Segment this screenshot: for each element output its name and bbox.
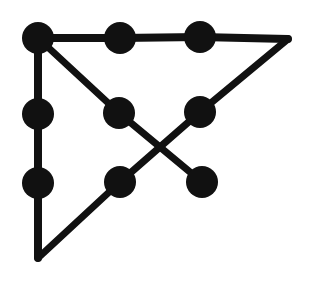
node-center-bottom bbox=[104, 166, 136, 198]
node-top-middle bbox=[104, 22, 136, 54]
figure-root bbox=[0, 0, 309, 284]
node-center-right bbox=[184, 96, 216, 128]
node-right-bottom bbox=[186, 166, 218, 198]
node-left-lower bbox=[22, 167, 54, 199]
node-center-left bbox=[103, 97, 135, 129]
node-left-middle bbox=[22, 98, 54, 130]
node-top-right bbox=[184, 21, 216, 53]
node-top-left bbox=[22, 22, 54, 54]
graph-diagram bbox=[0, 0, 309, 284]
